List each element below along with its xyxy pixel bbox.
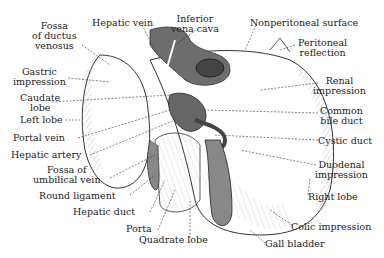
label-left-lobe: Left lobe bbox=[20, 115, 63, 125]
label-fossa-umbilical-vein: Fossa of umbilical vein bbox=[33, 165, 101, 185]
label-hepatic-duct: Hepatic duct bbox=[73, 207, 135, 217]
label-caudate-lobe: Caudate lobe bbox=[20, 93, 60, 113]
label-inferior-vena-cava: Inferior vena cava bbox=[171, 14, 219, 34]
label-gastric-impression: Gastric impression bbox=[13, 67, 66, 87]
label-renal-impression: Renal impression bbox=[313, 76, 366, 96]
label-peritoneal-reflection: Peritoneal reflection bbox=[298, 38, 347, 58]
label-fossa-ductus-venosus: Fossa of ductus venosus bbox=[32, 21, 77, 51]
label-round-ligament: Round ligament bbox=[39, 191, 116, 201]
label-porta: Porta bbox=[126, 224, 152, 234]
liver-diagram: Fossa of ductus venosus Gastric impressi… bbox=[0, 0, 384, 258]
label-cystic-duct: Cystic duct bbox=[318, 136, 372, 146]
label-hepatic-artery: Hepatic artery bbox=[11, 150, 81, 160]
label-hepatic-vein: Hepatic vein bbox=[92, 18, 153, 28]
label-gall-bladder: Gall bladder bbox=[265, 239, 324, 249]
label-quadrate-lobe: Quadrate lobe bbox=[139, 235, 208, 245]
label-colic-impression: Colic impression bbox=[291, 222, 371, 232]
label-duodenal-impression: Duodenal impression bbox=[315, 160, 368, 180]
label-nonperitoneal-surface: Nonperitoneal surface bbox=[250, 18, 358, 28]
label-right-lobe: Right lobe bbox=[308, 192, 358, 202]
label-common-bile-duct: Common bile duct bbox=[320, 106, 363, 126]
label-portal-vein: Portal vein bbox=[13, 133, 65, 143]
